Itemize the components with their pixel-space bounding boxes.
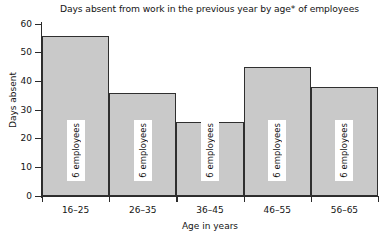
y-axis-tick-label-0: 0	[6, 191, 32, 201]
y-axis-tick-label-50: 50	[6, 47, 32, 57]
y-axis-tick-20	[35, 138, 41, 139]
bar-46-55: 6 employees	[244, 67, 311, 196]
bar-annotation-16-25: 6 employees	[67, 120, 85, 181]
y-axis-tick-0	[35, 196, 41, 197]
y-axis-tick-40	[35, 81, 41, 82]
bar-26-35: 6 employees	[109, 93, 176, 196]
y-axis-title: Days absent	[8, 60, 18, 140]
bar-annotation-label: 6 employees	[205, 123, 215, 178]
bar-annotation-56-65: 6 employees	[335, 120, 353, 181]
bar-chart-figure: Days absent from work in the previous ye…	[0, 0, 386, 240]
bar-annotation-36-45: 6 employees	[201, 120, 219, 181]
x-axis-tick-label-16-25: 16–25	[41, 205, 111, 215]
x-axis-tick-edge-4	[311, 196, 312, 202]
bar-annotation-26-35: 6 employees	[134, 120, 152, 181]
y-axis-tick-label-20: 20	[6, 133, 32, 143]
x-axis-tick-edge-1	[109, 196, 110, 202]
x-axis-tick-label-26-35: 26–35	[108, 205, 178, 215]
x-axis-tick-edge-5	[378, 196, 379, 202]
x-axis-tick-label-36-45: 36–45	[175, 205, 245, 215]
y-axis-tick-label-60: 60	[6, 19, 32, 29]
bar-annotation-label: 6 employees	[71, 123, 81, 178]
y-axis-tick-30	[35, 110, 41, 111]
bar-annotation-label: 6 employees	[272, 123, 282, 178]
y-axis-tick-60	[35, 24, 41, 25]
plot-area: 6 employees 6 employees 6 employees 6 em…	[42, 24, 378, 196]
y-axis-tick-50	[35, 52, 41, 53]
chart-title: Days absent from work in the previous ye…	[60, 3, 380, 14]
x-axis-tick-label-46-55: 46–55	[242, 205, 312, 215]
y-axis-tick-label-30: 30	[6, 105, 32, 115]
bar-36-45: 6 employees	[176, 122, 243, 197]
x-axis-tick-edge-3	[244, 196, 245, 202]
x-axis-title: Age in years	[42, 221, 378, 231]
x-axis-tick-edge-0	[42, 196, 43, 202]
bar-56-65: 6 employees	[311, 87, 378, 196]
y-axis-tick-label-40: 40	[6, 76, 32, 86]
bar-16-25: 6 employees	[42, 36, 109, 197]
bar-annotation-label: 6 employees	[138, 123, 148, 178]
bar-annotation-46-55: 6 employees	[268, 120, 286, 181]
y-axis-tick-10	[35, 167, 41, 168]
x-axis-tick-edge-2	[176, 196, 177, 202]
bar-annotation-label: 6 employees	[339, 123, 349, 178]
x-axis-tick-label-56-65: 56–65	[309, 205, 379, 215]
y-axis-tick-label-10: 10	[6, 162, 32, 172]
